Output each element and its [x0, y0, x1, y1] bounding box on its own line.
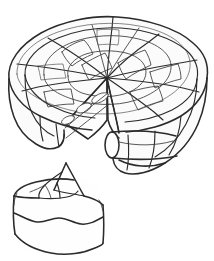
- cake-roll-cylinder-end: [105, 132, 119, 158]
- illustration-canvas: Hand drawn outline of a round lattice-to…: [0, 0, 214, 261]
- cake-line-drawing: [0, 0, 214, 261]
